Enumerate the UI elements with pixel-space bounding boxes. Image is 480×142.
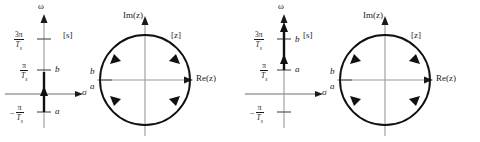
direction-arrow-upper-right [169,54,180,64]
panel-left: ω σ [s] 3π Ts π Ts − π Ts [0,0,240,142]
im-axis-line [142,16,149,136]
direction-arrow-upper-left [110,54,121,64]
z-plane-label: [z] [411,30,421,40]
circle-label-a: a [330,82,335,91]
figure-root: ω σ [s] 3π Ts π Ts − π Ts [0,0,480,142]
im-axis-label: Im(z) [363,11,383,20]
re-axis-label: Re(z) [196,74,216,83]
direction-arrow-lower-right [409,96,420,106]
z-plane-right [240,0,480,142]
z-plane-label: [z] [171,30,181,40]
panel-right: ω σ [s] 3π Ts π Ts − π Ts [240,0,480,142]
im-axis-line [382,16,389,136]
z-plane-left [0,0,240,142]
circle-label-b: b [330,67,335,76]
direction-arrow-lower-left [110,96,121,106]
circle-label-a: a [90,82,95,91]
circle-label-b: b [90,67,95,76]
direction-arrow-upper-left [350,54,361,64]
direction-arrow-lower-left [350,96,361,106]
im-axis-label: Im(z) [123,11,143,20]
re-axis-label: Re(z) [436,74,456,83]
direction-arrow-lower-right [169,96,180,106]
direction-arrow-upper-right [409,54,420,64]
